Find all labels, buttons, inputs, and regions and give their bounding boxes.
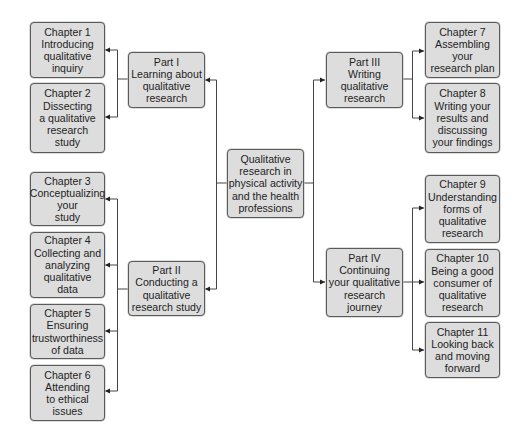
part-1-label: Part I Learning about qualitative resear… xyxy=(131,56,202,105)
part-2-node: Part II Conducting a qualitative researc… xyxy=(128,261,205,316)
chapter-7-node: Chapter 7 Assembling your research plan xyxy=(425,22,500,78)
part-1-node: Part I Learning about qualitative resear… xyxy=(128,52,205,108)
root-label: Qualitative research in physical activit… xyxy=(229,153,303,214)
chapter-8-label: Chapter 8 Writing your results and discu… xyxy=(432,87,492,148)
chapter-2-label: Chapter 2 Dissecting a qualitative resea… xyxy=(39,87,96,148)
chapter-3-label: Chapter 3 Conceptualizing your study xyxy=(30,175,105,224)
chapter-11-label: Chapter 11 Looking back and moving forwa… xyxy=(431,326,493,375)
chapter-6-label: Chapter 6 Attending to ethical issues xyxy=(44,369,91,418)
chapter-10-node: Chapter 10 Being a good consumer of qual… xyxy=(425,249,500,317)
chapter-5-label: Chapter 5 Ensuring trustworthiness of da… xyxy=(32,307,103,356)
chapter-9-label: Chapter 9 Understanding forms of qualita… xyxy=(428,178,497,239)
chapter-5-node: Chapter 5 Ensuring trustworthiness of da… xyxy=(30,304,105,359)
chapter-6-node: Chapter 6 Attending to ethical issues xyxy=(30,365,105,421)
chapter-11-node: Chapter 11 Looking back and moving forwa… xyxy=(425,322,500,378)
chapter-7-label: Chapter 7 Assembling your research plan xyxy=(430,26,494,75)
chapter-1-node: Chapter 1 Introducing qualitative inquir… xyxy=(30,22,105,78)
chapter-10-label: Chapter 10 Being a good consumer of qual… xyxy=(431,252,493,313)
part-3-label: Part III Writing qualitative research xyxy=(341,56,389,105)
chapter-8-node: Chapter 8 Writing your results and discu… xyxy=(425,83,500,153)
root-node: Qualitative research in physical activit… xyxy=(227,149,304,218)
chapter-9-node: Chapter 9 Understanding forms of qualita… xyxy=(425,175,500,243)
chapter-2-node: Chapter 2 Dissecting a qualitative resea… xyxy=(30,83,105,153)
chapter-4-label: Chapter 4 Collecting and analyzing quali… xyxy=(34,234,101,295)
part-4-label: Part IV Continuing your qualitative rese… xyxy=(329,252,400,313)
part-4-node: Part IV Continuing your qualitative rese… xyxy=(326,248,403,317)
part-2-label: Part II Conducting a qualitative researc… xyxy=(132,264,201,313)
chapter-4-node: Chapter 4 Collecting and analyzing quali… xyxy=(30,232,105,298)
chapter-1-label: Chapter 1 Introducing qualitative inquir… xyxy=(41,26,93,75)
chapter-3-node: Chapter 3 Conceptualizing your study xyxy=(30,172,105,226)
part-3-node: Part III Writing qualitative research xyxy=(326,52,403,108)
